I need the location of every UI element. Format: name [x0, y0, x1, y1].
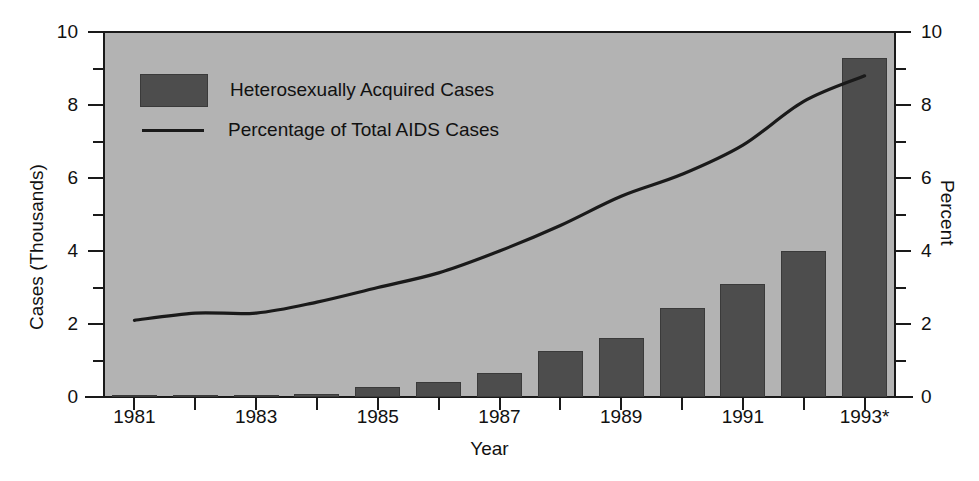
x-axis-tick	[316, 398, 318, 410]
bar	[599, 338, 644, 397]
y-axis-right-major-tick	[895, 396, 911, 398]
y-axis-right-minor-tick	[895, 68, 906, 70]
bar	[660, 308, 705, 397]
y-axis-right-minor-tick	[895, 360, 906, 362]
y-axis-left-minor-tick	[93, 287, 104, 289]
legend-line-icon	[140, 115, 206, 146]
bar	[477, 373, 522, 397]
y-axis-left-tick-label: 0	[38, 386, 78, 408]
y-axis-left-minor-tick	[93, 360, 104, 362]
x-axis-tick	[194, 398, 196, 410]
bar	[173, 395, 218, 397]
y-axis-right-tick-label: 2	[921, 313, 961, 335]
y-axis-left-major-tick	[88, 323, 104, 325]
legend: Heterosexually Acquired Cases Percentage…	[140, 70, 499, 150]
y-axis-left-minor-tick	[93, 141, 104, 143]
y-axis-left-major-tick	[88, 31, 104, 33]
legend-item-line: Percentage of Total AIDS Cases	[140, 110, 499, 150]
bar	[720, 284, 765, 397]
x-axis-tick-label: 1993*	[820, 406, 910, 428]
y-axis-left-tick-label: 8	[38, 94, 78, 116]
y-axis-right-tick-label: 10	[921, 21, 961, 43]
y-axis-right-major-tick	[895, 31, 911, 33]
y-axis-right-tick-label: 8	[921, 94, 961, 116]
y-axis-right-minor-tick	[895, 214, 906, 216]
x-axis-title: Year	[0, 438, 979, 460]
bar	[416, 382, 461, 397]
bar	[538, 351, 583, 397]
y-axis-left-major-tick	[88, 250, 104, 252]
bar	[112, 395, 157, 397]
legend-label-bars: Heterosexually Acquired Cases	[230, 79, 494, 101]
y-axis-right-major-tick	[895, 250, 911, 252]
x-axis-tick	[803, 398, 805, 410]
plot-border-top	[103, 31, 896, 33]
bar	[781, 251, 826, 397]
chart-container: 0246810 0246810 198119831985198719891991…	[0, 0, 979, 481]
x-axis-tick-label: 1983	[211, 406, 301, 428]
y-axis-left-minor-tick	[93, 214, 104, 216]
x-axis-tick-label: 1985	[333, 406, 423, 428]
y-axis-left-major-tick	[88, 104, 104, 106]
x-axis-tick-label: 1991	[698, 406, 788, 428]
legend-label-line: Percentage of Total AIDS Cases	[228, 119, 499, 141]
y-axis-right-major-tick	[895, 177, 911, 179]
y-axis-right-major-tick	[895, 104, 911, 106]
legend-swatch-icon	[140, 74, 208, 107]
y-axis-right-minor-tick	[895, 141, 906, 143]
x-axis-tick-label: 1987	[455, 406, 545, 428]
x-axis-tick	[681, 398, 683, 410]
bar	[234, 395, 279, 397]
y-axis-right-major-tick	[895, 323, 911, 325]
y-axis-left-tick-label: 10	[38, 21, 78, 43]
y-axis-left-major-tick	[88, 177, 104, 179]
x-axis-tick-label: 1989	[576, 406, 666, 428]
bar	[355, 387, 400, 397]
y-axis-left-title: Cases (Thousands)	[26, 164, 48, 330]
y-axis-left-major-tick	[88, 396, 104, 398]
bar	[842, 58, 887, 397]
y-axis-right-tick-label: 0	[921, 386, 961, 408]
x-axis-tick-label: 1981	[89, 406, 179, 428]
y-axis-left-minor-tick	[93, 68, 104, 70]
legend-item-bars: Heterosexually Acquired Cases	[140, 70, 499, 110]
x-axis-tick	[559, 398, 561, 410]
x-axis-tick	[438, 398, 440, 410]
y-axis-right-minor-tick	[895, 287, 906, 289]
y-axis-right-title: Percent	[936, 180, 958, 245]
bar	[294, 394, 339, 397]
